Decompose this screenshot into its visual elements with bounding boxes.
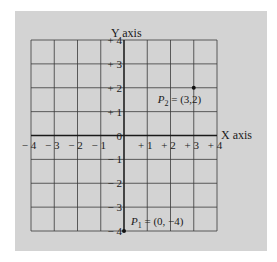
x-tick-label: + 2 [161, 139, 175, 151]
x-tick-label: − 1 [92, 139, 106, 151]
y-axis-title: Y axis [111, 26, 142, 40]
y-tick-label: − 3 [108, 201, 123, 213]
x-tick-label: − 4 [22, 139, 37, 151]
x-tick-label: + 3 [185, 139, 200, 151]
x-tick-label: + 1 [138, 139, 152, 151]
y-tick-label: − 2 [108, 177, 122, 189]
x-tick-label: − 3 [45, 139, 60, 151]
y-tick-label: + 2 [108, 82, 122, 94]
y-tick-label: − 4 [108, 225, 123, 237]
x-tick-label: − 2 [68, 139, 82, 151]
point-label-p1: P1 = (0, −4) [130, 215, 184, 230]
y-tick-label: − 1 [108, 153, 122, 165]
point-p2 [192, 86, 196, 90]
y-tick-label: + 1 [108, 106, 122, 118]
point-label-p2: P2 = (3,2) [157, 93, 202, 108]
y-tick-label: 0 [117, 130, 123, 142]
point-p1 [122, 229, 126, 233]
x-axis-title: X axis [221, 128, 252, 142]
coordinate-plane: − 4− 3− 2− 1+ 1+ 2+ 3+ 4+ 4+ 3+ 2+ 10− 1… [0, 0, 277, 262]
y-tick-label: + 3 [108, 58, 123, 70]
axes [31, 40, 217, 231]
